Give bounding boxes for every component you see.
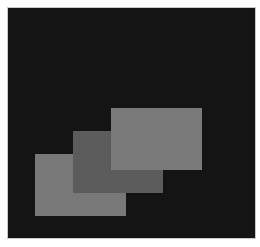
dark-panel [7, 7, 256, 239]
figure [0, 0, 260, 247]
front-rectangle [111, 108, 202, 170]
